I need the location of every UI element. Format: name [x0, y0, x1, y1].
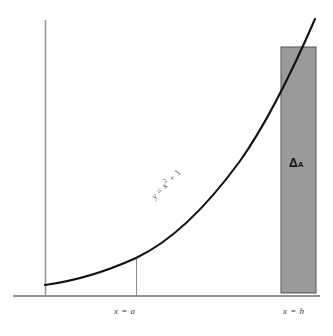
x-axis-label-b: x = b	[283, 306, 305, 316]
area-symbol: A	[298, 160, 304, 169]
figure-canvas: y = x2 + 1 ΔA x = a x = b	[0, 0, 333, 336]
curve-y-equals-x-squared-plus-one	[45, 19, 315, 285]
x-axis-label-a-text: x = a	[114, 306, 136, 316]
delta-symbol: Δ	[289, 156, 298, 170]
diagram-svg	[0, 0, 333, 336]
delta-area-label: ΔA	[289, 156, 303, 170]
x-axis-label-b-text: x = b	[283, 306, 305, 316]
x-axis-label-a: x = a	[114, 306, 136, 316]
delta-area-rectangle	[281, 47, 316, 293]
